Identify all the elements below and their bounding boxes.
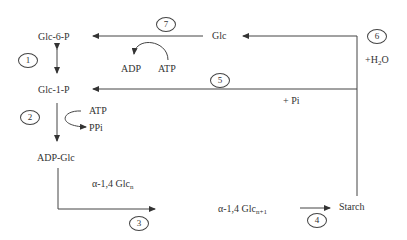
cofactor-ppi: PPi — [89, 122, 103, 134]
cofactor-adp: ADP — [121, 63, 141, 75]
node-alpha-glc-n: α-1,4 Glcn — [92, 178, 134, 190]
cofactor-atp-step2: ATP — [89, 105, 107, 117]
cofactor-pi: + Pi — [283, 95, 299, 107]
node-adp-glc: ADP-Glc — [37, 152, 75, 164]
node-glc: Glc — [212, 30, 226, 42]
step-2-badge: 2 — [20, 110, 40, 125]
step-4-badge: 4 — [307, 213, 327, 228]
node-alpha-glc-n-plus-1: α-1,4 Glcn+1 — [218, 203, 267, 215]
cofactor-atp-step7: ATP — [158, 63, 176, 75]
curved-arrow-atp-to-adp — [134, 43, 168, 60]
step-7-badge: 7 — [156, 17, 176, 32]
curved-arrow-atp-to-ppi — [65, 111, 86, 127]
node-glc-1-p: Glc-1-P — [38, 84, 70, 96]
step-3-badge: 3 — [129, 216, 149, 231]
step-6-badge: 6 — [367, 29, 387, 44]
step-1-badge: 1 — [18, 53, 38, 68]
cofactor-h2o: +H2O — [365, 54, 389, 66]
node-starch: Starch — [339, 201, 365, 213]
step-5-badge: 5 — [210, 73, 230, 88]
node-glc-6-p: Glc-6-P — [38, 31, 70, 43]
